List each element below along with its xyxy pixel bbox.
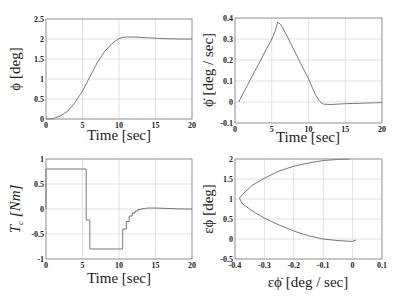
y-axis-label: εϕ [deg]: [200, 184, 216, 234]
x-tick-label: -0.2: [287, 261, 300, 270]
x-tick-label: 0: [233, 125, 237, 134]
x-tick-label: 5: [81, 261, 85, 270]
subplot-phase: -0.4-0.3-0.2-0.100.1-0.500.511.52 εϕ̇ [d…: [200, 155, 387, 290]
phase-curve: [239, 159, 355, 241]
y-tick-label: 0.2: [223, 56, 233, 65]
y-tick-label: 0.4: [223, 14, 233, 23]
axes-frame: [235, 159, 382, 259]
x-tick-label: 0.1: [377, 261, 387, 270]
y-tick-label: 1: [229, 195, 233, 204]
y-tick-label: 0: [40, 115, 44, 124]
x-tick-label: 15: [152, 261, 160, 270]
y-tick-label: 2: [229, 155, 233, 164]
y-axis-label: Tc [Nm]: [7, 185, 25, 234]
y-tick-label: -0.5: [31, 230, 44, 239]
y-tick-label: 0.3: [223, 35, 233, 44]
phi-dot-curve: [239, 22, 382, 104]
x-tick-label: 5: [270, 125, 274, 134]
x-tick-label: 10: [115, 261, 123, 270]
x-tick-label: -0.3: [258, 261, 271, 270]
y-tick-label: 0.1: [223, 77, 233, 86]
x-tick-label: 0: [44, 121, 48, 130]
x-tick-label: 20: [378, 125, 386, 134]
y-tick-label: 0.5: [34, 95, 44, 104]
x-axis-label: Time [sec]: [276, 129, 340, 145]
y-tick-label: 1.5: [34, 55, 44, 64]
figure: 0510152000.511.522.5 Time [sec] ϕ [deg] …: [0, 0, 401, 304]
subplot-phi: 0510152000.511.522.5 Time [sec] ϕ [deg]: [7, 15, 196, 143]
y-tick-label: -0.1: [220, 119, 233, 128]
y-axis-label: ϕ̇ [deg / sec]: [200, 33, 216, 107]
subplot-phi-dot: 05101520-0.100.10.20.30.4 Time [sec] ϕ̇ …: [200, 14, 386, 145]
x-tick-label: 20: [188, 121, 196, 130]
x-tick-label: 15: [152, 121, 160, 130]
y-tick-label: 0: [229, 235, 233, 244]
x-tick-label: 15: [341, 125, 349, 134]
y-tick-label: -0.5: [220, 255, 233, 264]
x-tick-label: 0: [44, 261, 48, 270]
x-tick-label: 20: [188, 261, 196, 270]
x-tick-label: 5: [81, 121, 85, 130]
y-tick-label: 1: [40, 155, 44, 164]
x-axis-label: εϕ̇ [deg / sec]: [268, 274, 348, 290]
x-tick-label: 0: [351, 261, 355, 270]
y-tick-label: 0: [40, 205, 44, 214]
subplot-torque: 05101520-1-0.500.51 Time [sec] Tc [Nm]: [7, 155, 196, 286]
y-tick-label: 1.5: [223, 175, 233, 184]
x-axis-label: Time [sec]: [87, 127, 151, 143]
y-tick-label: 0: [229, 98, 233, 107]
x-tick-label: -0.1: [317, 261, 330, 270]
x-axis-label: Time [sec]: [87, 270, 151, 286]
y-tick-label: 0.5: [223, 215, 233, 224]
y-tick-label: 1: [40, 75, 44, 84]
y-axis-label: ϕ [deg]: [7, 47, 23, 90]
y-tick-label: 0.5: [34, 180, 44, 189]
y-tick-label: -1: [37, 255, 44, 264]
ylabel-unit: [Nm]: [7, 185, 23, 221]
y-tick-label: 2: [40, 35, 44, 44]
y-tick-label: 2.5: [34, 15, 44, 24]
